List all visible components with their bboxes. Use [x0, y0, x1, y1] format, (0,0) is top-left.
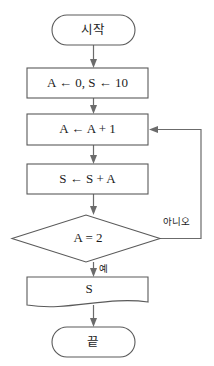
connector-increment-to-accumulate — [90, 145, 97, 164]
node-increment[interactable]: A ← A + 1 — [27, 114, 148, 145]
node-output[interactable]: S — [27, 277, 148, 307]
branch-label-yes: 예 — [99, 263, 108, 274]
node-decision[interactable]: A = 2 — [12, 215, 160, 262]
connector-start-to-init — [90, 45, 97, 68]
decision-label: A = 2 — [73, 230, 102, 245]
node-end[interactable]: 끝 — [52, 327, 135, 357]
flowchart-svg: 시작 A ← 0, S ← 10 A ← A + 1 S ← S + A A =… — [0, 0, 214, 366]
connector-output-to-end — [90, 305, 97, 327]
start-label: 시작 — [81, 23, 106, 37]
node-start[interactable]: 시작 — [52, 15, 135, 45]
accumulate-label: S ← S + A — [59, 171, 116, 186]
init-label: A ← 0, S ← 10 — [47, 75, 128, 90]
connector-decision-yes-to-output — [90, 262, 97, 277]
node-accumulate[interactable]: S ← S + A — [27, 164, 148, 194]
node-init[interactable]: A ← 0, S ← 10 — [27, 68, 148, 98]
flowchart-canvas: 시작 A ← 0, S ← 10 A ← A + 1 S ← S + A A =… — [0, 0, 214, 366]
output-label: S — [85, 281, 92, 296]
connector-accumulate-to-decision — [90, 194, 97, 215]
increment-label: A ← A + 1 — [59, 121, 115, 136]
end-label: 끝 — [87, 335, 99, 349]
connector-init-to-increment — [90, 98, 97, 114]
branch-label-no: 아니오 — [163, 216, 190, 227]
